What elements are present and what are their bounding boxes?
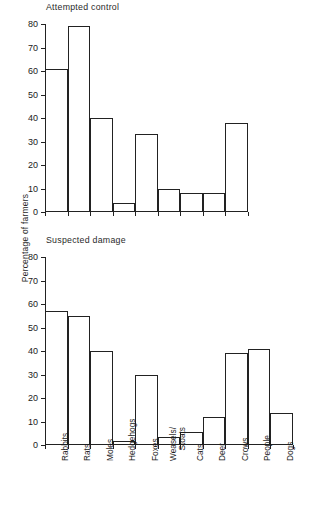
- y-tick-label: 70: [28, 276, 38, 285]
- y-tick: [41, 142, 45, 143]
- x-tick: [203, 212, 204, 216]
- bar: [270, 413, 293, 445]
- x-label-line: People: [263, 435, 272, 461]
- y-tick-label: 70: [28, 43, 38, 52]
- x-label-line: Deer: [218, 443, 227, 461]
- y-tick-label: 40: [28, 347, 38, 356]
- y-tick-label: 60: [28, 300, 38, 309]
- y-tick-label: 40: [28, 114, 38, 123]
- y-tick: [41, 351, 45, 352]
- chart-panel-suspected-damage: Suspected damage 01020304050607080: [0, 247, 334, 461]
- y-tick: [41, 118, 45, 119]
- bar: [225, 123, 248, 212]
- x-tick: [180, 212, 181, 216]
- y-tick: [41, 48, 45, 49]
- bar: [45, 311, 68, 445]
- y-tick-label: 20: [28, 394, 38, 403]
- x-label-line: Stoats: [178, 427, 187, 461]
- figure: Percentage of farmers Attempted control …: [0, 0, 334, 517]
- bar: [45, 69, 68, 212]
- bar: [90, 118, 113, 212]
- x-tick: [158, 212, 159, 216]
- x-axis-label-hedgehogs: Hedgehogs: [128, 419, 137, 461]
- plot-area-attempted-control: 01020304050607080: [45, 24, 313, 212]
- bar: [68, 26, 91, 212]
- bar-group-attempted-control: [45, 24, 248, 212]
- x-axis-label-rats: Rats: [83, 444, 92, 461]
- x-label-line: Foxes: [151, 438, 160, 461]
- x-axis-label-foxes: Foxes: [151, 438, 160, 461]
- bar: [135, 375, 158, 446]
- bar: [135, 134, 158, 212]
- chart-panel-attempted-control: Attempted control 01020304050607080: [0, 14, 334, 228]
- x-axis-label-people: People: [263, 435, 272, 461]
- y-tick: [41, 304, 45, 305]
- y-tick-label: 80: [28, 20, 38, 29]
- x-axis-label-crows: Crows: [241, 437, 250, 461]
- bar: [203, 193, 226, 212]
- x-tick: [68, 212, 69, 216]
- x-tick: [248, 212, 249, 216]
- y-tick: [41, 24, 45, 25]
- x-label-line: Rats: [83, 444, 92, 461]
- y-tick-label: 20: [28, 161, 38, 170]
- x-label-line: Rabbits: [61, 433, 70, 461]
- x-label-line: Moles: [106, 439, 115, 461]
- y-tick-label: 10: [28, 184, 38, 193]
- y-tick-label: 30: [28, 137, 38, 146]
- y-tick-label: 0: [33, 441, 38, 450]
- x-tick: [45, 445, 46, 449]
- y-tick: [41, 422, 45, 423]
- x-axis-label-deer: Deer: [218, 443, 227, 461]
- x-axis-label-rabbits: Rabbits: [61, 433, 70, 461]
- x-axis-label-dogs: Dogs: [286, 442, 295, 461]
- x-axis-label-weaselsstoats: Weasels/Stoats: [169, 427, 187, 461]
- x-label-line: Cats: [196, 444, 205, 461]
- y-tick: [41, 375, 45, 376]
- y-tick-label: 80: [28, 253, 38, 262]
- bar: [90, 351, 113, 445]
- bar: [158, 189, 181, 213]
- y-tick: [41, 189, 45, 190]
- x-tick: [225, 212, 226, 216]
- x-tick: [135, 212, 136, 216]
- bar: [225, 353, 248, 445]
- x-label-line: Dogs: [286, 442, 295, 461]
- y-tick-label: 60: [28, 67, 38, 76]
- x-axis-label-cats: Cats: [196, 444, 205, 461]
- bar: [113, 203, 136, 212]
- y-tick-label: 50: [28, 90, 38, 99]
- y-tick: [41, 281, 45, 282]
- bar: [203, 417, 226, 445]
- x-label-line: Crows: [241, 437, 250, 461]
- bar: [248, 349, 271, 445]
- x-label-line: Hedgehogs: [128, 419, 137, 461]
- x-axis-category-labels: RabbitsRatsMolesHedgehogsFoxesWeasels/St…: [0, 461, 334, 517]
- y-tick: [41, 328, 45, 329]
- x-tick: [90, 212, 91, 216]
- y-tick-label: 0: [33, 208, 38, 217]
- panel-title-attempted-control: Attempted control: [46, 2, 119, 12]
- x-tick: [113, 212, 114, 216]
- x-tick: [45, 212, 46, 216]
- y-tick: [41, 165, 45, 166]
- y-tick-label: 30: [28, 370, 38, 379]
- panel-title-suspected-damage: Suspected damage: [46, 235, 126, 245]
- y-tick-label: 50: [28, 323, 38, 332]
- y-tick: [41, 398, 45, 399]
- x-axis-label-moles: Moles: [106, 439, 115, 461]
- bar-group-suspected-damage: [45, 257, 293, 445]
- bar: [180, 193, 203, 212]
- plot-area-suspected-damage: 01020304050607080: [45, 257, 313, 445]
- y-tick: [41, 71, 45, 72]
- y-tick-label: 10: [28, 417, 38, 426]
- y-tick: [41, 95, 45, 96]
- bar: [68, 316, 91, 445]
- y-tick: [41, 257, 45, 258]
